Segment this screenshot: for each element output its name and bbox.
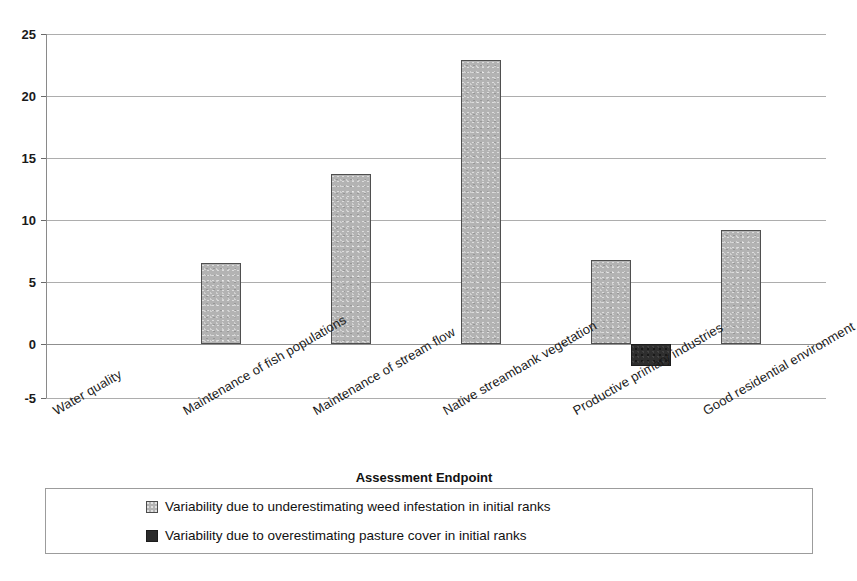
- y-axis-line: [46, 34, 47, 398]
- y-tick-label-25: 25: [0, 28, 36, 41]
- bar-s0-c3: [461, 60, 501, 344]
- legend-swatch-light-gray-icon: [146, 501, 158, 513]
- gridline-10: [46, 220, 826, 221]
- y-tick-0: [41, 344, 46, 345]
- bar-s0-c1: [201, 263, 241, 344]
- gridline-15: [46, 158, 826, 159]
- bar-s0-c5: [721, 230, 761, 344]
- legend-swatch-dark-icon: [146, 530, 158, 542]
- legend-item-1: Variability due to overestimating pastur…: [146, 529, 526, 543]
- y-tick-label-20: 20: [0, 90, 36, 103]
- y-tick-label-0: 0: [0, 338, 36, 351]
- gridline-5: [46, 282, 826, 283]
- y-tick-label-10: 10: [0, 214, 36, 227]
- y-tick-20: [41, 96, 46, 97]
- gridline-20: [46, 96, 826, 97]
- legend-label-1: Variability due to overestimating pastur…: [165, 529, 526, 543]
- x-axis-title: Assessment Endpoint: [0, 470, 848, 485]
- y-tick-5: [41, 282, 46, 283]
- y-tick-label-5: 5: [0, 276, 36, 289]
- legend: Variability due to underestimating weed …: [45, 488, 813, 554]
- gridline-25: [46, 34, 826, 35]
- y-tick-10: [41, 220, 46, 221]
- y-tick-label-15: 15: [0, 152, 36, 165]
- legend-label-0: Variability due to underestimating weed …: [165, 500, 550, 514]
- y-tick-25: [41, 34, 46, 35]
- legend-item-0: Variability due to underestimating weed …: [146, 500, 550, 514]
- y-tick-15: [41, 158, 46, 159]
- y-tick-minus5: [41, 398, 46, 399]
- y-tick-label-minus5: -5: [0, 392, 36, 405]
- category-label-0: Water quality: [50, 367, 124, 418]
